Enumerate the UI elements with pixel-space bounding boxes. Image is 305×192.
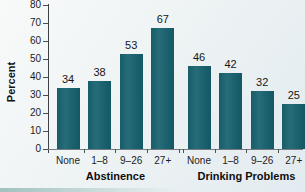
group-label-1: Drinking Problems xyxy=(186,170,305,182)
bar-abstinence-3 xyxy=(151,28,174,149)
y-tick-label: 70 xyxy=(21,18,41,28)
x-tick xyxy=(246,149,247,153)
x-tick xyxy=(115,149,116,153)
bar-value-label: 25 xyxy=(274,90,305,101)
y-tick xyxy=(43,113,48,114)
bar-drinking-problems-2 xyxy=(251,91,274,149)
y-tick-label: 30 xyxy=(21,90,41,100)
bar-abstinence-1 xyxy=(88,81,111,149)
y-tick xyxy=(43,59,48,60)
bar-abstinence-2 xyxy=(120,54,143,149)
group-label-0: Abstinence xyxy=(55,170,175,182)
y-tick xyxy=(43,41,48,42)
x-tick xyxy=(84,149,85,153)
bar-drinking-problems-0 xyxy=(188,66,211,149)
y-tick-label: 20 xyxy=(21,108,41,118)
y-axis-title: Percent xyxy=(5,57,17,107)
y-tick xyxy=(43,23,48,24)
category-label: 27+ xyxy=(143,155,182,166)
scan-artifact-strip xyxy=(0,188,177,192)
y-tick xyxy=(43,149,48,150)
x-axis-line xyxy=(48,149,303,150)
y-tick xyxy=(43,95,48,96)
x-tick xyxy=(179,149,180,153)
bar-value-label: 38 xyxy=(80,67,119,78)
bar-value-label: 32 xyxy=(243,77,282,88)
x-tick xyxy=(215,149,216,153)
y-tick-label: 60 xyxy=(21,36,41,46)
y-tick-label: 40 xyxy=(21,72,41,82)
y-tick-label: 0 xyxy=(21,144,41,154)
bar-value-label: 53 xyxy=(112,40,151,51)
y-tick xyxy=(43,131,48,132)
x-tick xyxy=(183,149,184,153)
bar-value-label: 42 xyxy=(211,59,250,70)
bar-chart-figure: Percent 0102030405060708034None381–8539–… xyxy=(0,0,305,192)
bar-value-label: 67 xyxy=(143,14,182,25)
bar-abstinence-0 xyxy=(57,88,80,149)
bar-drinking-problems-1 xyxy=(219,73,242,149)
bar-drinking-problems-3 xyxy=(282,104,305,149)
y-tick-label: 50 xyxy=(21,54,41,64)
y-tick-label: 10 xyxy=(21,126,41,136)
x-tick xyxy=(147,149,148,153)
y-tick xyxy=(43,77,48,78)
category-label: 27+ xyxy=(274,155,305,166)
y-tick xyxy=(43,5,48,6)
x-tick xyxy=(278,149,279,153)
y-tick-label: 80 xyxy=(21,0,41,10)
